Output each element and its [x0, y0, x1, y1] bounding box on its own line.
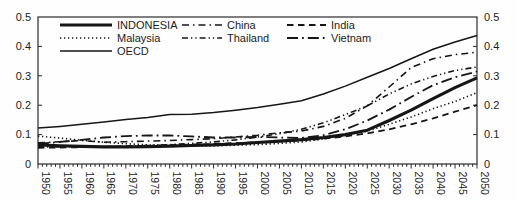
y-axis-label-left: 0.2 — [16, 99, 31, 111]
x-axis-label: 2020 — [347, 172, 359, 196]
y-axis-label-right: 0.2 — [484, 99, 499, 111]
x-axis-label: 2000 — [259, 172, 271, 196]
y-axis-label-left: 0.3 — [16, 70, 31, 82]
y-axis-label-right: 0 — [484, 158, 490, 170]
x-axis-label: 2035 — [413, 172, 425, 196]
y-axis-label-right: 0.3 — [484, 70, 499, 82]
x-axis-label: 2025 — [369, 172, 381, 196]
legend-label-vietnam: Vietnam — [331, 32, 371, 44]
x-axis-label: 1985 — [193, 172, 205, 196]
x-axis-label: 1965 — [105, 172, 117, 196]
x-axis-label: 1995 — [237, 172, 249, 196]
chart-canvas: 000.10.10.20.20.30.30.40.40.50.519501955… — [0, 0, 516, 202]
y-axis-label-left: 0 — [25, 158, 31, 170]
legend-label-oecd: OECD — [117, 45, 149, 57]
x-axis-label: 2015 — [325, 172, 337, 196]
x-axis-label: 2030 — [391, 172, 403, 196]
x-axis-label: 1975 — [149, 172, 161, 196]
x-axis-label: 2050 — [479, 172, 491, 196]
y-axis-label-left: 0.4 — [16, 40, 31, 52]
x-axis-label: 1955 — [62, 172, 74, 196]
legend-label-indonesia: INDONESIA — [117, 19, 178, 31]
y-axis-label-left: 0.5 — [16, 11, 31, 23]
x-axis-label: 1960 — [84, 172, 96, 196]
x-axis-label: 1990 — [215, 172, 227, 196]
legend-label-china: China — [227, 19, 257, 31]
x-axis-label: 1950 — [40, 172, 52, 196]
legend-label-malaysia: Malaysia — [117, 32, 161, 44]
x-axis-label: 2040 — [435, 172, 447, 196]
y-axis-label-right: 0.1 — [484, 128, 499, 140]
x-axis-label: 1980 — [171, 172, 183, 196]
chart-figure: 000.10.10.20.20.30.30.40.40.50.519501955… — [0, 0, 516, 202]
y-axis-label-right: 0.4 — [484, 40, 499, 52]
x-axis-label: 2045 — [457, 172, 469, 196]
y-axis-label-left: 0.1 — [16, 128, 31, 140]
x-axis-label: 1970 — [127, 172, 139, 196]
x-axis-label: 2010 — [303, 172, 315, 196]
y-axis-label-right: 0.5 — [484, 11, 499, 23]
x-axis-label: 2005 — [281, 172, 293, 196]
legend-label-india: India — [331, 19, 356, 31]
legend-label-thailand: Thailand — [227, 32, 269, 44]
